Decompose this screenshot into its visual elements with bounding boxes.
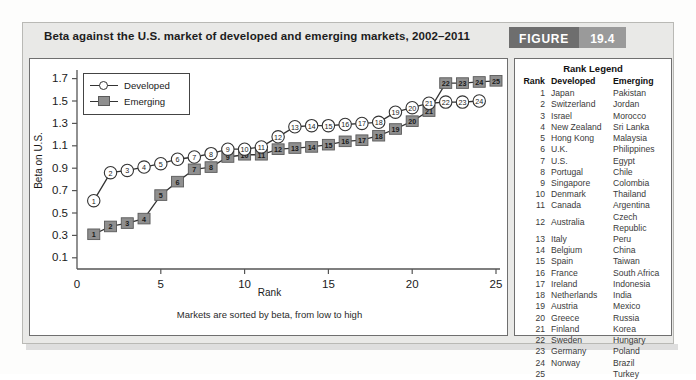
- emerging-cell: China: [613, 245, 671, 256]
- table-row: 12AustraliaCzech Republic: [515, 212, 671, 234]
- svg-text:17: 17: [358, 136, 366, 145]
- svg-text:19: 19: [391, 125, 399, 134]
- table-row: 6U.K.Philippines: [515, 144, 671, 155]
- y-tick-label: 1.7: [52, 72, 68, 84]
- emerging-cell: Jordan: [613, 99, 671, 110]
- svg-text:8: 8: [209, 150, 213, 159]
- svg-text:23: 23: [458, 79, 466, 88]
- table-row: 10DenmarkThailand: [515, 189, 671, 200]
- emerging-cell: Poland: [613, 346, 671, 357]
- svg-text:24: 24: [475, 97, 483, 106]
- rank-legend-header-developed: Developed: [551, 76, 613, 88]
- developed-cell: [551, 369, 613, 380]
- developed-cell: Belgium: [551, 245, 613, 256]
- svg-text:2: 2: [109, 222, 113, 231]
- legend-entry-developed: Developed: [90, 79, 170, 91]
- emerging-data-point: 6: [172, 176, 184, 187]
- developed-cell: Denmark: [551, 189, 613, 200]
- rank-cell: 8: [515, 167, 551, 178]
- legend-entry-emerging: Emerging: [90, 95, 165, 107]
- emerging-data-point: 18: [373, 130, 385, 141]
- svg-text:14: 14: [308, 143, 316, 152]
- svg-text:7: 7: [192, 165, 196, 174]
- rank-cell: 15: [515, 256, 551, 267]
- emerging-cell: Thailand: [613, 189, 671, 200]
- developed-data-point: 6: [171, 153, 183, 165]
- rank-cell: 21: [515, 324, 551, 335]
- emerging-data-point: 5: [155, 190, 167, 201]
- emerging-cell: Colombia: [613, 178, 671, 189]
- developed-cell: Germany: [551, 346, 613, 357]
- rank-cell: 9: [515, 178, 551, 189]
- developed-cell: Australia: [551, 212, 613, 234]
- svg-text:13: 13: [291, 123, 299, 132]
- developed-cell: France: [551, 268, 613, 279]
- developed-data-point: 10: [238, 143, 250, 155]
- rank-cell: 11: [515, 200, 551, 211]
- svg-text:18: 18: [375, 132, 383, 141]
- figure-badge-label: FIGURE: [509, 27, 579, 48]
- developed-data-point: 18: [372, 116, 384, 128]
- developed-cell: Greece: [551, 313, 613, 324]
- y-tick-label: 1.5: [52, 95, 68, 107]
- svg-text:13: 13: [291, 144, 299, 153]
- svg-text:10: 10: [241, 145, 249, 154]
- rank-legend-table: Rank Developed Emerging 1JapanPakistan2S…: [515, 76, 671, 380]
- rank-cell: 25: [515, 369, 551, 380]
- table-row: 18NetherlandsIndia: [515, 290, 671, 301]
- svg-text:20: 20: [408, 104, 416, 113]
- table-row: 1JapanPakistan: [515, 88, 671, 99]
- figure-badge-number: 19.4: [579, 27, 626, 48]
- developed-data-point: 14: [305, 119, 317, 131]
- developed-cell: Hong Kong: [551, 133, 613, 144]
- rank-cell: 23: [515, 346, 551, 357]
- table-row: 11CanadaArgentina: [515, 200, 671, 211]
- developed-data-point: 8: [205, 147, 217, 159]
- svg-text:8: 8: [209, 163, 213, 172]
- page-title: Beta against the U.S. market of develope…: [44, 30, 470, 42]
- table-row: 16FranceSouth Africa: [515, 268, 671, 279]
- chart-panel: 0.10.30.50.70.91.11.31.51.70510152025123…: [29, 58, 508, 336]
- developed-data-point: 7: [188, 151, 200, 163]
- emerging-data-point: 12: [272, 144, 284, 155]
- y-tick-label: 0.5: [52, 207, 68, 219]
- y-tick-label: 1.1: [52, 139, 68, 151]
- svg-text:2: 2: [109, 169, 113, 178]
- developed-data-point: 15: [322, 119, 334, 131]
- svg-text:15: 15: [324, 122, 332, 131]
- developed-data-point: 13: [289, 121, 301, 133]
- svg-text:12: 12: [274, 145, 282, 154]
- svg-text:1: 1: [92, 197, 96, 206]
- emerging-cell: Philippines: [613, 144, 671, 155]
- rank-cell: 6: [515, 144, 551, 155]
- svg-text:17: 17: [358, 119, 366, 128]
- developed-cell: New Zealand: [551, 122, 613, 133]
- developed-cell: Sweden: [551, 335, 613, 346]
- emerging-data-point: 16: [339, 136, 351, 147]
- emerging-cell: Chile: [613, 167, 671, 178]
- developed-data-point: 11: [255, 141, 267, 153]
- emerging-data-point: 14: [306, 142, 318, 153]
- table-row: 14BelgiumChina: [515, 245, 671, 256]
- developed-cell: U.S.: [551, 155, 613, 166]
- figure-header: Beta against the U.S. market of develope…: [22, 22, 674, 54]
- developed-data-point: 9: [222, 143, 234, 155]
- developed-data-point: 21: [423, 97, 435, 109]
- legend-label-developed: Developed: [124, 80, 170, 91]
- developed-cell: Italy: [551, 234, 613, 245]
- rank-cell: 10: [515, 189, 551, 200]
- svg-text:3: 3: [125, 219, 129, 228]
- rank-cell: 20: [515, 313, 551, 324]
- svg-text:7: 7: [192, 153, 196, 162]
- rank-legend-body: 1JapanPakistan2SwitzerlandJordan3IsraelM…: [515, 88, 671, 380]
- emerging-cell: Sri Lanka: [613, 122, 671, 133]
- emerging-data-point: 4: [138, 213, 150, 224]
- rank-cell: 3: [515, 110, 551, 121]
- table-row: 22SwedenHungary: [515, 335, 671, 346]
- developed-data-point: 5: [155, 158, 167, 170]
- legend-label-emerging: Emerging: [124, 96, 165, 107]
- svg-text:4: 4: [142, 215, 146, 224]
- svg-text:11: 11: [258, 143, 265, 152]
- rank-cell: 14: [515, 245, 551, 256]
